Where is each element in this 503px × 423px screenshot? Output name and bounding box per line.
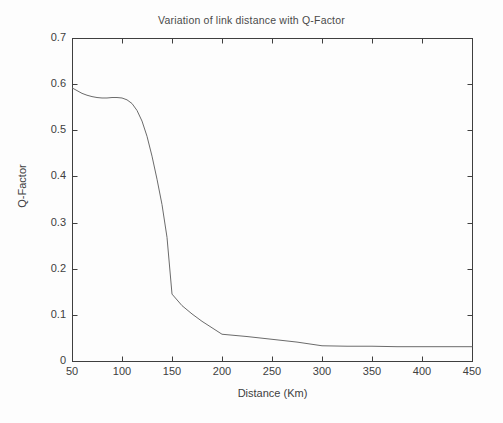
y-tick-label: 0.7: [51, 32, 66, 43]
y-axis-ticks: [73, 39, 473, 362]
y-tick-label: 0.2: [51, 263, 66, 274]
y-tick-label: 0.4: [51, 170, 66, 181]
plot-frame: [73, 39, 473, 362]
chart-figure: Variation of link distance with Q-Factor…: [0, 0, 503, 423]
plot-svg: [72, 38, 473, 362]
y-axis-tick-labels: 0.7 0.6 0.5 0.4 0.3 0.2 0.1 0: [0, 0, 66, 423]
chart-title: Variation of link distance with Q-Factor: [0, 14, 503, 26]
x-axis-tick-labels: 50 100 150 200 250 300 350 400 450: [0, 366, 503, 386]
y-tick-label: 0.6: [51, 78, 66, 89]
plot-area: [72, 38, 473, 362]
x-axis-ticks: [73, 39, 473, 362]
y-tick-label: 0.3: [51, 217, 66, 228]
x-tick-label: 450: [442, 366, 502, 377]
x-axis-title: Distance (Km): [72, 387, 473, 399]
y-tick-label: 0.1: [51, 309, 66, 320]
y-axis-title: Q-Factor: [16, 151, 28, 221]
data-series-line: [72, 88, 472, 347]
y-tick-label: 0.5: [51, 124, 66, 135]
